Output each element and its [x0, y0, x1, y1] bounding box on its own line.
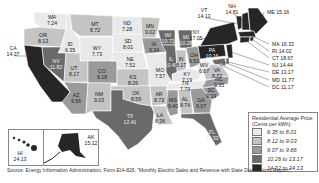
state-value: 12.41 [124, 119, 137, 125]
state-value: 8.01 [123, 44, 133, 50]
state-value: 8.13 [38, 38, 48, 44]
legend: Residential Average Price (Cents per kWh… [248, 112, 318, 172]
legend-swatch [252, 155, 262, 163]
state-fl [181, 113, 222, 146]
legend-swatch [252, 128, 262, 136]
state-callout: MA 16.33 [272, 41, 294, 47]
state-value: 11.82 [50, 64, 63, 70]
legend-label: 9.07 to 9.66 [267, 147, 297, 153]
state-value: 14.81 [226, 9, 239, 15]
state-value: 9.34 [149, 47, 159, 53]
state-value: 7.73 [92, 51, 102, 57]
state-value: 9.18 [97, 74, 107, 80]
state-value: 7.79 [180, 86, 190, 92]
state-me [248, 8, 268, 34]
state-callout: DC 11.17 [272, 84, 294, 90]
state-value: 9.02 [145, 29, 155, 35]
state-value: 10.72 [162, 38, 175, 44]
legend-item: 8.12 to 9.03 [252, 136, 314, 145]
legend-swatch [252, 146, 262, 154]
legend-item: 9.07 to 9.66 [252, 145, 314, 154]
state-value: 9.35 [214, 82, 224, 88]
leader-line [252, 36, 269, 44]
state-value: 9.51 [189, 58, 199, 64]
state-value: 9.56 [71, 98, 81, 104]
source-note: Source: Energy Information Administratio… [7, 167, 307, 173]
state-callout: RI 14.02 [272, 48, 292, 54]
state-value: 17.05 [190, 35, 203, 41]
alaska-hawaii-insets [8, 129, 99, 166]
state-value: 8.73 [154, 97, 164, 103]
state-callout: CT 18.67 [272, 55, 293, 61]
state-callout: ME 15.16 [267, 9, 289, 15]
state-callout: MD 11.77 [272, 77, 294, 83]
state-ny [200, 22, 238, 46]
legend-label: 10.26 to 13.17 [267, 156, 303, 162]
leader-line [224, 62, 269, 80]
state-value: 8.72 [90, 27, 100, 33]
inset-divider [43, 130, 44, 165]
state-value: 7.28 [122, 26, 132, 32]
state-value: 8.72 [212, 73, 222, 79]
state-value: 8.17 [176, 62, 186, 68]
state-value: 9.19 [206, 93, 216, 99]
legend-item: 6.35 to 8.01 [252, 127, 314, 136]
state-callout: DE 13.17 [272, 69, 294, 75]
state-value: 8.17 [69, 71, 79, 77]
leader-line [206, 18, 238, 24]
state-value: 10.16 [206, 53, 219, 59]
leader-line [253, 40, 269, 51]
state-value: 8.74 [180, 102, 190, 108]
state-value: 8.36 [155, 118, 165, 124]
state-value: 7.24 [47, 20, 57, 26]
state-ma [238, 31, 256, 37]
legend-label: 6.35 to 8.01 [267, 129, 297, 135]
legend-label: 8.12 to 9.03 [267, 138, 297, 144]
legend-item: 10.26 to 13.17 [252, 155, 314, 164]
state-value: 14.37 [7, 51, 20, 57]
state-callout: NJ 14.44 [272, 62, 293, 68]
state-value: 9.07 [196, 103, 206, 109]
leader-line [231, 52, 269, 65]
state-value: 9.03 [94, 97, 104, 103]
state-value: 6.35 [65, 47, 75, 53]
leader-line [228, 62, 269, 72]
state-value: 8.26 [128, 80, 138, 86]
state-value: 7.52 [125, 62, 135, 68]
state-value: 7.57 [155, 73, 165, 79]
state-nj [226, 44, 233, 58]
state-value: 8.59 [131, 96, 141, 102]
state-value: 6.67 [199, 68, 209, 74]
electricity-price-map: WA7.24OR8.13CA14.37ID6.35NV11.82MT8.72WY… [0, 0, 319, 183]
state-value: 9.40 [168, 103, 178, 109]
state-value: 10.33 [206, 135, 219, 141]
legend-swatch [252, 137, 262, 145]
state-value: 14.13 [198, 13, 211, 19]
